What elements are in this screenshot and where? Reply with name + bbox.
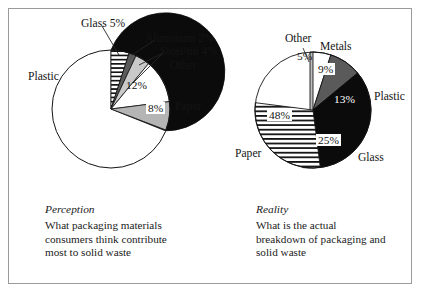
caption-reality-line-3: solid waste	[256, 246, 386, 259]
caption-reality-heading: Reality	[256, 203, 386, 216]
reality-pie	[255, 48, 371, 168]
value-other-perception: 12%	[126, 79, 147, 91]
caption-reality: Reality What is the actual breakdown of …	[256, 203, 386, 260]
value-plastic-perception: 69%	[98, 124, 119, 136]
value-paper-reality: 48%	[267, 109, 292, 121]
caption-reality-line-2: breakdown of packaging and	[256, 233, 386, 246]
label-other-perception: Other	[170, 60, 196, 72]
label-paper-perception: Paper	[175, 101, 201, 113]
caption-perception: Perception What packaging materials cons…	[45, 203, 167, 260]
label-other-reality: Other	[285, 33, 311, 45]
label-paper-reality: Paper	[235, 148, 261, 160]
label-glass-reality: Glass	[358, 152, 384, 164]
figure-stage: Glass 5% Aluminum 2% Steel/tin 4% Other …	[0, 0, 426, 294]
label-plastic-reality: Plastic	[374, 91, 405, 103]
caption-perception-heading: Perception	[45, 203, 167, 216]
label-steeltin-perception: Steel/tin 4%	[160, 46, 217, 58]
label-aluminum-perception: Aluminum 2%	[145, 33, 214, 45]
label-glass-perception: Glass 5%	[81, 18, 125, 30]
value-metals-reality: 9%	[316, 63, 335, 75]
caption-perception-line-1: What packaging materials	[45, 219, 167, 232]
value-glass-reality: 25%	[316, 134, 341, 146]
label-metals-reality: Metals	[320, 41, 352, 53]
value-paper-perception: 8%	[146, 102, 165, 114]
caption-reality-line-1: What is the actual	[256, 219, 386, 232]
label-plastic-perception: Plastic	[28, 71, 59, 83]
value-other-reality: 5%	[297, 50, 312, 62]
caption-perception-line-3: most to solid waste	[45, 246, 167, 259]
value-plastic-reality: 13%	[334, 93, 355, 105]
caption-perception-line-2: consumers think contribute	[45, 233, 167, 246]
